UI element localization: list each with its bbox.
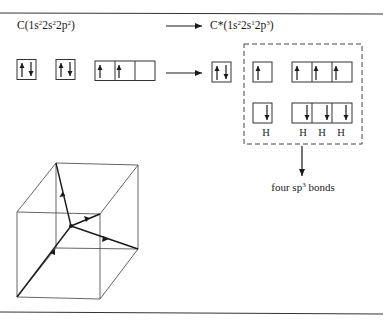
excited-2s-orbital	[253, 62, 272, 82]
tetrahedral-cube	[17, 163, 138, 299]
ground-2s-orbital	[56, 60, 75, 80]
hybridization-diagram: C(1s22s22p2) C*(1s22s12p3)	[0, 0, 390, 322]
ground-2p-orbitals	[95, 61, 155, 81]
ground-1s-orbital	[17, 60, 36, 80]
hydrogen-2p-pairs	[292, 103, 352, 123]
top-rule	[0, 13, 383, 14]
bottom-rule	[0, 312, 383, 314]
hydrogen-label: H	[299, 127, 307, 138]
excited-2p-orbitals	[292, 62, 352, 82]
hydrogen-label: H	[318, 127, 326, 138]
hydrogen-2s-pair	[253, 103, 272, 123]
ground-state-label: C(1s22s22p2)	[17, 19, 75, 32]
sp3-bond-vectors	[17, 163, 138, 297]
excited-state-label: C*(1s22s12p3)	[210, 19, 274, 32]
arrowhead-icon	[102, 236, 109, 242]
hydrogen-label: H	[337, 127, 345, 138]
hydrogen-label: H	[262, 127, 270, 138]
excited-1s-orbital	[212, 62, 231, 82]
carbon-nucleus	[69, 224, 73, 228]
result-label: four sp3 bonds	[271, 181, 334, 193]
